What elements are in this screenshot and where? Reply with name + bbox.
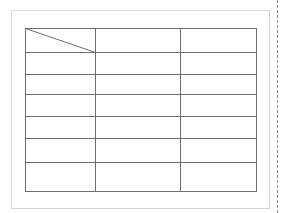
table[interactable] (0, 0, 284, 213)
table-cell-r1-c1[interactable] (26, 29, 95, 52)
table-cell-r1-c3[interactable] (181, 29, 256, 52)
table-cells[interactable] (26, 29, 256, 52)
table-cell-r1-c2[interactable] (96, 29, 180, 52)
